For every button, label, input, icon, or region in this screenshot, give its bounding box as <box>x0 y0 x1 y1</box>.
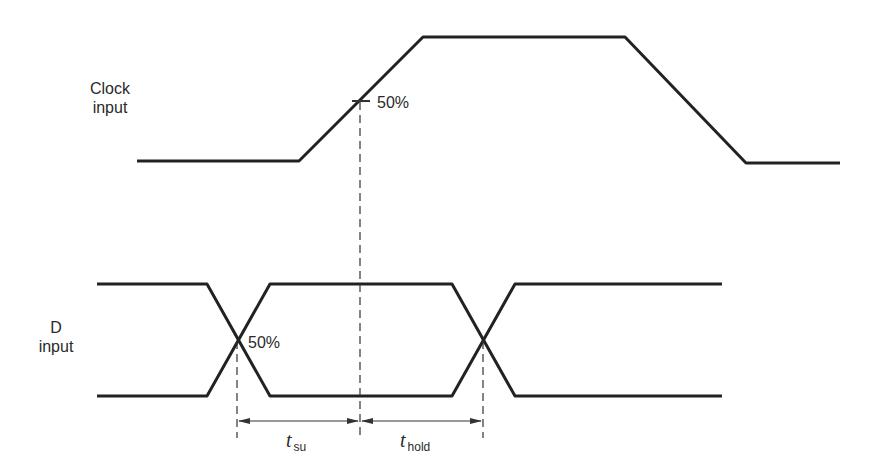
setup-time-label: tsu <box>286 429 306 454</box>
d-waveform-high-path <box>97 284 722 396</box>
d-waveform-low-path <box>97 284 722 396</box>
hold-time-label: thold <box>400 429 430 454</box>
d-50-label: 50% <box>248 334 280 351</box>
clock-waveform <box>137 37 840 163</box>
clock-50-label: 50% <box>377 94 409 111</box>
timing-diagram: 50% 50% tsu thold <box>0 0 874 466</box>
